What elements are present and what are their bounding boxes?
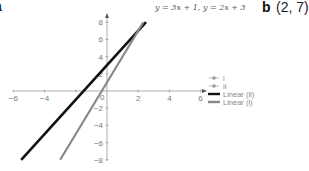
x-ticks: −6−40246 bbox=[9, 90, 204, 104]
y-tick-label: −8 bbox=[94, 156, 104, 165]
y-axis-arrow-icon bbox=[105, 13, 109, 18]
x-axis-arrow-icon bbox=[202, 89, 207, 93]
legend-marker-icon bbox=[213, 77, 216, 80]
x-tick-label: 4 bbox=[167, 94, 172, 103]
x-tick-label: 2 bbox=[136, 94, 141, 103]
legend: iiiLinear (ii)Linear (i) bbox=[208, 74, 255, 107]
x-tick-label: −6 bbox=[9, 94, 19, 103]
y-tick-label: −6 bbox=[94, 139, 104, 148]
y-tick-label: −4 bbox=[94, 121, 104, 130]
legend-label: Linear (i) bbox=[223, 98, 253, 107]
y-tick-label: 4 bbox=[99, 53, 104, 62]
x-tick-label: 6 bbox=[198, 94, 203, 103]
y-tick-label: 8 bbox=[99, 18, 104, 27]
chart-plot: −6−40246 −8−6−4−22468 iiiLinear (ii)Line… bbox=[0, 0, 309, 171]
y-tick-label: 6 bbox=[99, 35, 104, 44]
x-tick-label: −4 bbox=[40, 94, 50, 103]
y-tick-label: −2 bbox=[94, 104, 104, 113]
legend-marker-icon bbox=[213, 85, 216, 88]
